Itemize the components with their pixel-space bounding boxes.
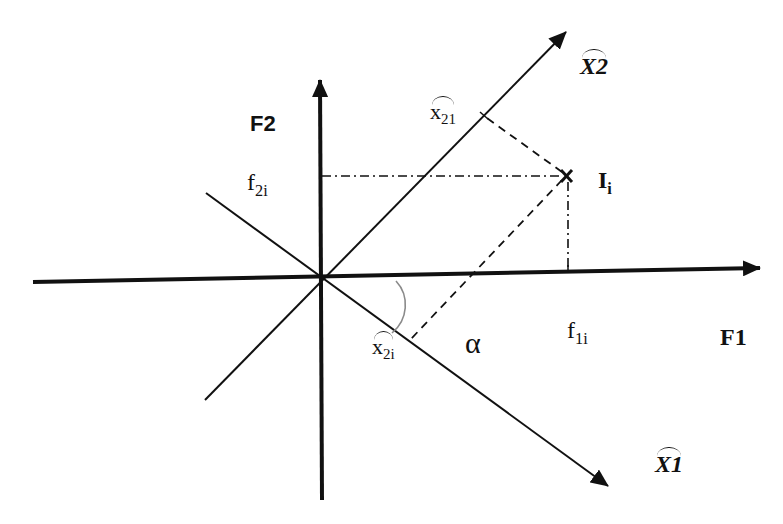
f1i-subscript: 1i [575,329,588,348]
f2-axis [320,80,322,500]
point-name: I [598,167,607,193]
x2i-subscript: 2i [383,346,395,362]
x2i-label: x2i [372,336,395,358]
projection-to-x1 [410,180,562,340]
x21-base: x [430,99,441,124]
x2-hat-text: X2 [580,54,608,78]
f2i-subscript: 2i [255,181,268,200]
f2i-base: f [247,169,255,195]
angle-alpha-label: α [465,328,481,358]
f1i-label: f1i [567,318,588,342]
point-subscript: i [607,179,612,198]
f1-axis [33,268,760,282]
x2i-base: x [372,334,383,359]
point-marker-icon [561,170,572,182]
angle-arc [392,281,405,333]
f1i-base: f [567,317,575,343]
f2i-label: f2i [247,170,268,194]
x21-subscript: 21 [441,111,456,127]
x2-axis-label: X2 [580,54,608,78]
f2-axis-label: F2 [250,113,276,135]
x1-axis-label: X1 [655,452,683,476]
point-label: Ii [598,168,612,192]
f1-axis-label: F1 [720,325,747,349]
projection-to-x2 [484,116,562,172]
x21-label: x21 [430,101,456,123]
x1-axis [206,193,608,486]
x1-hat-text: X1 [655,452,683,476]
pca-rotation-diagram [0,0,783,524]
